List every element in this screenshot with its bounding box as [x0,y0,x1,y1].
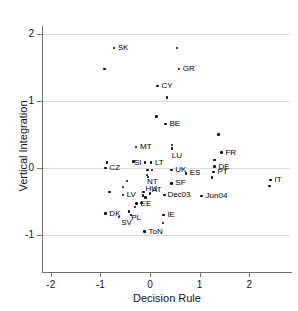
data-point-label: SV [121,219,132,227]
data-point [155,115,157,117]
data-point [103,68,105,70]
data-point-label: LV [127,191,136,199]
data-point [217,133,219,135]
scatter-plot: 210-1 -2-1012 SKGRCYBEMTLUFRSILTCZDEUKES… [0,0,298,311]
data-point [171,147,173,149]
data-point-label: LU [172,152,182,160]
data-point [143,230,145,232]
data-point [212,171,214,173]
data-point [156,85,158,87]
gridline-y [43,34,290,35]
data-point-label: SF [175,179,185,187]
data-point [113,47,115,49]
gridline-y [43,101,290,102]
y-tick-label: 2 [0,29,34,39]
data-point-label: ES [190,169,201,177]
data-point [164,123,166,125]
data-point-label: ToN [149,228,163,236]
data-point [149,192,151,194]
data-point [185,172,187,174]
data-point [170,182,172,184]
data-point [162,214,164,216]
data-point-label: MT [140,143,152,151]
data-point [213,159,215,161]
data-point [135,202,137,204]
data-point [150,161,152,163]
x-tick-label: -1 [85,279,115,290]
data-point-label: PT [217,168,227,176]
gridline-y [43,235,290,236]
data-point-label: CZ [109,164,120,172]
data-point [106,161,108,163]
y-tick-label: -1 [0,230,34,240]
data-point [126,180,128,182]
data-point [104,212,106,214]
data-point [269,179,271,181]
data-point [108,191,110,193]
data-point-label: GR [183,65,195,73]
data-point-label: PL [131,214,141,222]
data-point-label: Dec03 [167,191,190,199]
data-point-label: LT [155,159,164,167]
data-point [104,167,106,169]
x-tick-label: 0 [135,279,165,290]
data-point [134,206,136,208]
y-axis-line [42,26,43,272]
data-point [142,191,144,193]
data-point [268,185,270,187]
data-point-label: IE [167,211,175,219]
data-point [178,68,180,70]
x-tick-label: 1 [185,279,215,290]
data-point [211,176,213,178]
x-tick-label: -2 [36,279,66,290]
data-point [162,222,164,224]
data-point-label: AT [152,186,162,194]
data-point [166,96,168,98]
data-point [140,202,142,204]
data-point [128,210,130,212]
data-point [200,195,202,197]
data-point [171,144,173,146]
data-point-label: FR [225,149,236,157]
data-point [122,194,124,196]
data-point-label: SI [134,159,142,167]
data-point [135,146,137,148]
data-point-label: Jun04 [206,192,228,200]
data-point-label: SK [118,44,129,52]
x-tick-label: 2 [234,279,264,290]
y-axis-title: Vertical Integration [17,66,29,226]
x-axis-line [42,272,292,273]
data-point [151,169,153,171]
data-point [146,169,148,171]
data-point [213,165,215,167]
data-point [163,194,165,196]
gridline-y [43,168,290,169]
data-point [122,186,124,188]
data-point-label: IT [275,176,282,184]
data-point [144,161,146,163]
data-point-label: BE [169,120,180,128]
data-point [220,151,222,153]
data-point [170,169,172,171]
x-axis-title: Decision Rule [42,292,292,304]
data-point [176,47,178,49]
data-point-label: CY [161,82,172,90]
